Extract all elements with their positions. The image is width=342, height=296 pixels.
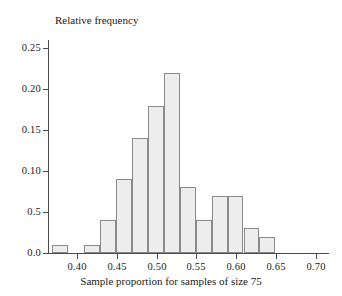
histogram-bar [212,196,228,253]
x-tick-mark [236,254,237,259]
histogram-bar [228,196,244,253]
histogram-figure: Relative frequency 0.00.50.100.150.200.2… [0,0,342,296]
y-tick-mark [43,212,48,213]
y-tick-mark [43,48,48,49]
histogram-bars [49,40,328,253]
y-tick-label: 0.15 [22,125,41,136]
x-tick-label: 0.65 [266,261,285,272]
x-axis-title: Sample proportion for samples of size 75 [80,275,261,287]
y-tick-mark [43,171,48,172]
histogram-bar [180,187,196,253]
y-tick-mark [43,130,48,131]
histogram-bar [196,220,212,253]
histogram-bar [148,106,164,253]
histogram-bar [244,228,260,253]
y-tick-label: 0.5 [27,207,41,218]
x-tick-label: 0.50 [147,261,166,272]
histogram-bar [164,73,180,253]
x-tick-label: 0.70 [306,261,325,272]
y-tick-label: 0.20 [22,84,41,95]
x-tick-label: 0.55 [186,261,205,272]
x-axis-line [48,253,329,254]
x-tick-mark [316,254,317,259]
histogram-bar [116,179,132,253]
histogram-bar [259,237,275,253]
histogram-bar [84,245,100,253]
y-tick-mark [43,253,48,254]
x-tick-mark [77,254,78,259]
x-tick-mark [157,254,158,259]
histogram-bar [132,138,148,253]
histogram-bar [52,245,68,253]
x-tick-mark [117,254,118,259]
histogram-bar [100,220,116,253]
y-tick-label: 0.25 [22,43,41,54]
x-tick-label: 0.40 [67,261,86,272]
x-tick-label: 0.45 [107,261,126,272]
y-tick-label: 0.10 [22,166,41,177]
x-tick-mark [196,254,197,259]
x-tick-label: 0.60 [226,261,245,272]
y-axis-title: Relative frequency [55,14,138,26]
x-tick-mark [276,254,277,259]
y-tick-label: 0.0 [27,248,41,259]
y-tick-mark [43,89,48,90]
